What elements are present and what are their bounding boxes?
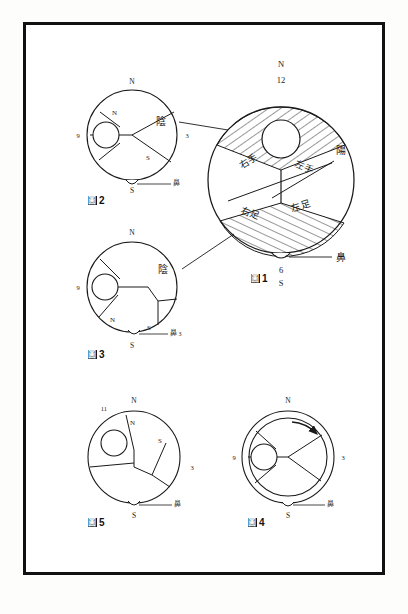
figure-2-caption-number: 2: [99, 195, 105, 206]
figure-1-head-circle: [262, 120, 300, 158]
figure-1-caption: 圖1: [251, 273, 268, 284]
figure-5-spoke-lower-right: [134, 467, 152, 475]
figure-2-nose-label: 鼻: [173, 178, 180, 187]
figure-4-south-label: S: [286, 511, 290, 520]
figure-4-rotation-arrow-icon: [292, 422, 316, 433]
figure-3-diagram: N S 9 3 N S 鼻: [74, 229, 199, 351]
figure-2-clock-9-label: 9: [76, 132, 79, 139]
scanned-page: N 12 6 S 陰 陰 陽 鼻 右手 左手 右足 左足 圖1: [0, 0, 408, 614]
figure-3-caption: 圖3: [88, 349, 105, 360]
figure-2-north-label: N: [129, 77, 135, 86]
figure-5-caption-number: 5: [99, 517, 105, 528]
figure-5-diagram: N S 11 3 N S 鼻: [74, 395, 202, 520]
figure-3-caption-number: 3: [99, 349, 105, 360]
figure-5-spoke-left: [90, 463, 134, 467]
figure-1-diagram: N 12 6 S 陰 陰 陽 鼻 右手 左手 右足 左足: [184, 73, 384, 288]
figure-3-arm-elbow: [148, 287, 158, 301]
figure-3-caption-glyph: 圖: [88, 350, 97, 359]
figure-5-south-label: S: [132, 511, 136, 520]
figure-3-clock-3-label: 3: [179, 331, 182, 337]
figure-5-inner-south-label: S: [158, 437, 162, 445]
figure-3-south-label: S: [130, 341, 134, 350]
figure-5-spoke-to-rim-upper: [152, 443, 166, 475]
figure-2-inner-south-label: S: [146, 154, 150, 162]
figure-3-spoke-right: [158, 299, 177, 301]
figure-5-clock-3-label: 3: [190, 464, 193, 471]
figure-4-nose-notch: [282, 502, 294, 506]
figure-4-spoke-lower-right: [288, 457, 321, 481]
figure-2-clock-3-label: 3: [185, 132, 188, 139]
figure-1-north-label: N: [278, 59, 284, 69]
figure-1-south-label: S: [279, 278, 284, 288]
figure-4-spoke-upper-right: [288, 435, 322, 457]
figure-4-caption-number: 4: [259, 517, 265, 528]
figure-2-caption: 圖2: [88, 195, 105, 206]
figure-1-caption-glyph: 圖: [251, 274, 260, 283]
figure-3-inner-south-label: S: [147, 324, 151, 332]
figure-2-diagram: N S 9 3 N S 鼻: [74, 80, 194, 195]
figure-1-nose-label: 鼻: [336, 251, 346, 263]
figure-1-yang-label: 陽: [336, 145, 346, 156]
figure-5-clock-11-label: 11: [101, 405, 107, 412]
figure-1-caption-number: 1: [262, 273, 268, 284]
figure-5-north-label: N: [131, 396, 137, 405]
figure-4-diagram: N S 9 3 鼻: [226, 395, 354, 520]
figure-5-caption-glyph: 圖: [88, 518, 97, 527]
figure-5-nose-label: 鼻: [174, 499, 181, 508]
figure-4-caption-glyph: 圖: [248, 518, 257, 527]
figure-3-nose-label: 鼻: [170, 328, 177, 337]
figure-4-caption: 圖4: [248, 517, 265, 528]
figure-1-clock-6-label: 6: [279, 265, 283, 275]
figure-5-spoke-to-rim-lower: [152, 475, 170, 487]
figure-2-south-label: S: [130, 186, 134, 195]
figure-1-lower-hatched-band: [220, 203, 344, 256]
plate-inner: N 12 6 S 陰 陰 陽 鼻 右手 左手 右足 左足 圖1: [26, 25, 382, 572]
figure-3-inner-north-label: N: [110, 316, 115, 324]
figure-5-inner-north-label: N: [130, 419, 135, 427]
figure-1-clock-12-label: 12: [277, 75, 286, 85]
figure-2-nose-notch: [126, 180, 138, 184]
figure-2-spoke-lower-right: [132, 135, 171, 162]
figure-1-nose-notch: [272, 253, 290, 258]
figure-5-head-circle: [101, 430, 127, 456]
figure-3-nose-notch: [128, 330, 140, 334]
figure-3-clock-9-label: 9: [76, 284, 79, 291]
figure-5-caption: 圖5: [88, 517, 105, 528]
figure-3-north-label: N: [129, 228, 135, 237]
figure-4-nose-label: 鼻: [327, 499, 334, 508]
figure-4-north-label: N: [285, 396, 291, 405]
figure-2-spoke-upper-right: [132, 112, 174, 135]
figure-4-clock-3-label: 3: [341, 454, 344, 461]
figure-2-inner-north-label: N: [112, 109, 117, 117]
figure-2-caption-glyph: 圖: [88, 196, 97, 205]
figure-2-head-circle: [93, 122, 119, 148]
plate-frame: N 12 6 S 陰 陰 陽 鼻 右手 左手 右足 左足 圖1: [23, 22, 385, 575]
figure-4-clock-9-label: 9: [232, 454, 235, 461]
figure-5-nose-notch: [128, 501, 140, 505]
figure-4-head-circle: [251, 444, 277, 470]
figure-3-head-circle: [92, 274, 118, 300]
